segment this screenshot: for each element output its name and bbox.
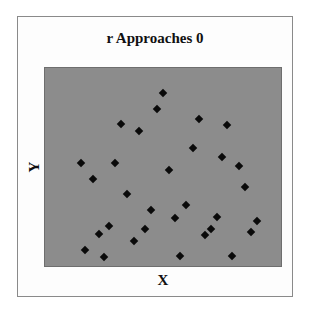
data-point	[100, 253, 108, 261]
data-point	[253, 217, 261, 225]
data-point	[171, 214, 179, 222]
data-point	[76, 159, 84, 167]
data-point	[223, 121, 231, 129]
x-axis-label: X	[44, 272, 282, 289]
data-point	[194, 115, 202, 123]
data-point	[123, 189, 131, 197]
data-point	[94, 230, 102, 238]
data-point	[206, 225, 214, 233]
data-point	[153, 104, 161, 112]
data-point	[88, 175, 96, 183]
data-point	[217, 153, 225, 161]
plot-area	[44, 67, 282, 267]
data-point	[135, 127, 143, 135]
data-point	[141, 225, 149, 233]
data-point	[228, 252, 236, 260]
data-point	[200, 231, 208, 239]
data-point	[247, 228, 255, 236]
data-point	[80, 246, 88, 254]
data-point	[235, 162, 243, 170]
data-point	[117, 120, 125, 128]
data-point	[241, 183, 249, 191]
chart-title: r Approaches 0	[17, 30, 293, 47]
data-point	[111, 159, 119, 167]
data-point	[105, 222, 113, 230]
y-axis-label: Y	[26, 152, 43, 182]
data-point	[182, 200, 190, 208]
data-point	[165, 166, 173, 174]
data-point	[147, 205, 155, 213]
data-point	[212, 212, 220, 220]
data-point	[188, 144, 196, 152]
data-point	[176, 252, 184, 260]
data-point	[159, 89, 167, 97]
data-point	[130, 237, 138, 245]
